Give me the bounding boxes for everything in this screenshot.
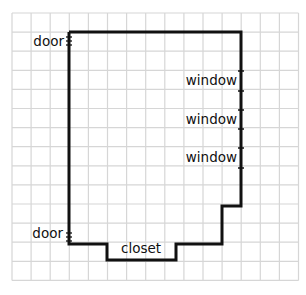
door-top-label: door xyxy=(33,33,64,49)
closet-label: closet xyxy=(121,240,161,256)
window-label-1: window xyxy=(186,72,237,88)
door-bottom-label: door xyxy=(32,225,63,241)
window-label-2: window xyxy=(186,111,237,127)
room-outline xyxy=(69,32,241,260)
floor-plan-diagram: door door window window window closet xyxy=(0,0,306,295)
window-label-3: window xyxy=(186,149,237,165)
